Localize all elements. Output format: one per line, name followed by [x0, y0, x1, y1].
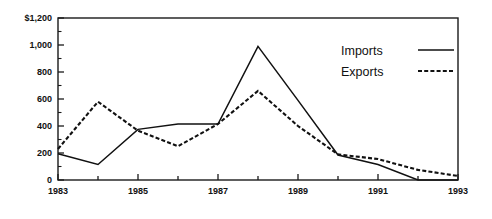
y-tick-label: $1,200	[24, 13, 52, 23]
y-tick-label: 400	[37, 121, 52, 131]
x-tick-label: 1983	[48, 186, 68, 196]
y-axis-tick-labels: 02004006008001,000$1,200	[24, 13, 52, 185]
data-series-layer	[58, 46, 458, 180]
legend-label-exports: Exports	[341, 65, 383, 79]
x-tick-label: 1989	[288, 186, 308, 196]
x-axis-ticks	[58, 174, 458, 180]
y-tick-label: 800	[37, 67, 52, 77]
series-line-exports	[58, 91, 458, 176]
series-line-imports	[58, 46, 458, 180]
x-axis-tick-labels: 198319851987198919911993	[48, 186, 468, 196]
x-tick-label: 1987	[208, 186, 228, 196]
x-tick-label: 1985	[128, 186, 148, 196]
y-tick-label: 600	[37, 94, 52, 104]
y-tick-label: 0	[47, 175, 52, 185]
chart-legend: ImportsExports	[341, 44, 454, 79]
plot-frame	[58, 18, 458, 180]
y-tick-label: 1,000	[29, 40, 52, 50]
line-chart: 02004006008001,000$1,200 198319851987198…	[0, 0, 492, 219]
y-tick-label: 200	[37, 148, 52, 158]
chart-container: 02004006008001,000$1,200 198319851987198…	[0, 0, 492, 219]
x-tick-label: 1991	[368, 186, 388, 196]
x-tick-label: 1993	[448, 186, 468, 196]
legend-label-imports: Imports	[341, 44, 383, 58]
